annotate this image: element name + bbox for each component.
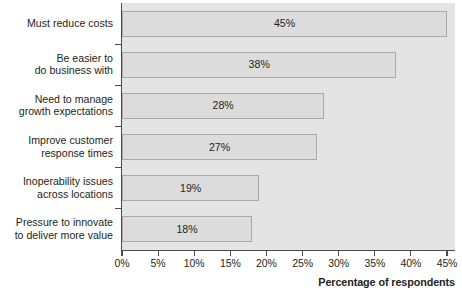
x-axis-tick [410,251,411,256]
x-axis-tick-label: 45% [427,257,462,269]
category-label-line: to deliver more value [0,229,113,242]
x-axis-tick-label: 40% [391,257,431,269]
category-label-line: do business with [0,64,113,77]
x-axis-tick [121,251,122,256]
category-label: Improve customerresponse times [0,134,113,159]
bar-value-label: 38% [249,58,270,70]
y-axis-tick [115,126,122,127]
x-axis-tick [338,251,339,256]
category-label-line: growth expectations [0,105,113,118]
category-label-line: Pressure to innovate [0,216,113,229]
bar-value-label: 18% [176,223,197,235]
x-axis-tick-label: 35% [355,257,395,269]
x-axis-tick-label: 10% [174,257,214,269]
bar-value-label: 19% [180,182,201,194]
bar-value-label: 45% [274,17,295,29]
y-axis-tick [115,85,122,86]
category-label-line: Improve customer [0,134,113,147]
plot-area-background [122,3,455,250]
category-label-line: Need to manage [0,93,113,106]
x-axis-tick [446,251,447,256]
y-axis-tick [115,44,122,45]
category-label-line: Inoperability issues [0,175,113,188]
category-label-line: across locations [0,188,113,201]
category-label: Need to managegrowth expectations [0,93,113,118]
x-axis-tick-label: 25% [283,257,323,269]
x-axis-tick [158,251,159,256]
category-label-line: response times [0,147,113,160]
x-axis-tick-label: 0% [102,257,142,269]
category-label: Inoperability issuesacross locations [0,175,113,200]
bar-value-label: 28% [213,99,234,111]
y-axis-tick [115,167,122,168]
category-label: Pressure to innovateto deliver more valu… [0,216,113,241]
x-axis-title: Percentage of respondents [318,276,455,288]
category-label: Must reduce costs [0,17,113,30]
x-axis-tick-label: 20% [246,257,286,269]
category-label-line: Be easier to [0,52,113,65]
x-axis-tick-label: 5% [138,257,178,269]
x-axis-tick [194,251,195,256]
category-label-line: Must reduce costs [0,17,113,30]
x-axis-line [121,250,455,251]
x-axis-tick-label: 15% [210,257,250,269]
category-label: Be easier todo business with [0,52,113,77]
x-axis-tick-label: 30% [319,257,359,269]
y-axis-tick [115,208,122,209]
x-axis-tick [230,251,231,256]
x-axis-tick [374,251,375,256]
x-axis-tick [302,251,303,256]
bar-value-label: 27% [209,141,230,153]
x-axis-tick [266,251,267,256]
